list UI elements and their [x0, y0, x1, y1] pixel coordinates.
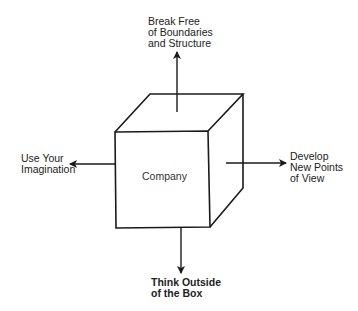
label-right-line: of View [290, 173, 343, 184]
cube-top-face [115, 94, 243, 132]
label-top-line: and Structure [148, 38, 213, 49]
label-top: Break Free of Boundaries and Structure [148, 16, 213, 49]
label-bottom-line: of the Box [151, 288, 221, 299]
label-bottom: Think Outside of the Box [151, 277, 221, 299]
label-right: Develop New Points of View [290, 151, 343, 184]
label-left-line: Imagination [21, 164, 75, 175]
company-label: Company [142, 170, 187, 182]
label-left: Use Your Imagination [21, 153, 75, 175]
cube-right-face [210, 94, 243, 227]
